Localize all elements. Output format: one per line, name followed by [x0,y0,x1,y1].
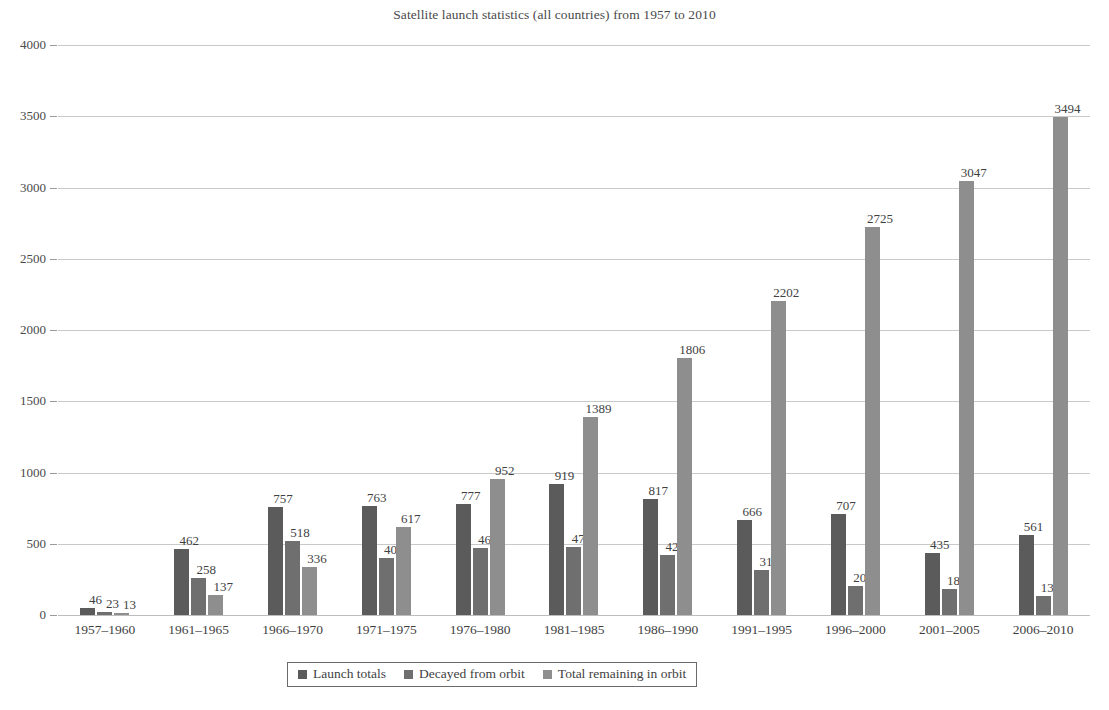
y-axis-tick-label: 4000 [0,37,46,53]
legend-item[interactable]: Decayed from orbit [404,666,525,682]
bar-group: 6663132202 [715,45,809,615]
bar-value-label: 462 [166,533,212,548]
y-axis-tick-label: 2500 [0,251,46,267]
bar-group: 462258137 [152,45,246,615]
bar-value-label: 817 [635,483,681,498]
bar[interactable] [1036,596,1051,615]
bar[interactable] [865,227,880,615]
bar[interactable] [959,181,974,615]
bar[interactable] [114,613,129,615]
y-axis-tick-mark [50,116,57,117]
bar[interactable] [362,506,377,615]
bar-value-label: 435 [917,537,963,552]
bar-group: 7072022725 [809,45,903,615]
bar[interactable] [566,547,581,615]
bar[interactable] [97,612,112,615]
bar[interactable] [848,586,863,615]
bar-value-label: 777 [448,488,494,503]
bar-value-label: 3047 [951,165,997,180]
bar-value-label: 137 [200,579,246,594]
bar-group: 777468952 [433,45,527,615]
y-axis-tick-mark [50,615,57,616]
bar-value-label: 666 [729,504,775,519]
y-axis-tick-mark [50,45,57,46]
bar[interactable] [771,301,786,615]
bar-value-label: 952 [482,463,528,478]
bar[interactable] [583,417,598,615]
bar-value-label: 707 [823,498,869,513]
bar-group: 757518336 [246,45,340,615]
bar-value-label: 919 [541,468,587,483]
y-axis-tick-label: 0 [0,607,46,623]
bar[interactable] [677,358,692,615]
bar[interactable] [208,595,223,615]
y-axis-tick-label: 1000 [0,465,46,481]
bar-value-label: 2725 [857,211,903,226]
legend-item[interactable]: Launch totals [298,666,386,682]
x-axis-tick-label: 2006–2010 [983,622,1103,638]
bar[interactable] [1053,117,1068,615]
bar[interactable] [174,549,189,615]
bar-value-label: 1806 [669,342,715,357]
bar[interactable] [302,567,317,615]
bar-group: 462313 [58,45,152,615]
bar-value-label: 757 [260,491,306,506]
bar[interactable] [1019,535,1034,615]
y-axis-tick-label: 500 [0,536,46,552]
legend-item[interactable]: Total remaining in orbit [543,666,686,682]
y-axis-tick-mark [50,473,57,474]
bar-value-label: 2202 [763,285,809,300]
bar[interactable] [396,527,411,615]
y-axis-tick-label: 3500 [0,108,46,124]
bar-group: 5611363494 [996,45,1090,615]
bar[interactable] [379,558,394,615]
y-axis-tick-label: 1500 [0,393,46,409]
bar-value-label: 561 [1011,519,1057,534]
y-axis-tick-mark [50,330,57,331]
bar[interactable] [660,555,675,615]
bar-value-label: 617 [388,511,434,526]
bar-group: 8174231806 [621,45,715,615]
legend-label: Decayed from orbit [419,666,525,682]
y-axis-tick-label: 3000 [0,180,46,196]
bar[interactable] [549,484,564,615]
bar-chart: Satellite launch statistics (all countri… [0,0,1109,710]
y-axis-tick-mark [50,544,57,545]
bar-value-label: 258 [183,562,229,577]
legend-swatch-icon [298,670,307,679]
gridline [58,615,1090,616]
bar-group: 9194741389 [527,45,621,615]
y-axis-tick-label: 2000 [0,322,46,338]
chart-title: Satellite launch statistics (all countri… [0,7,1109,23]
bar-group: 763400617 [339,45,433,615]
bar-value-label: 13 [106,597,152,612]
bar[interactable] [942,589,957,615]
y-axis-tick-mark [50,259,57,260]
y-axis-tick-mark [50,401,57,402]
legend-swatch-icon [404,670,413,679]
bar-value-label: 3494 [1045,101,1091,116]
chart-legend: Launch totalsDecayed from orbitTotal rem… [287,662,697,687]
bar-value-label: 518 [277,525,323,540]
y-axis-tick-mark [50,188,57,189]
bar[interactable] [754,570,769,615]
bar[interactable] [643,499,658,615]
bar[interactable] [268,507,283,615]
plot-area: 4623134622581377575183367634006177774689… [58,45,1090,615]
legend-label: Launch totals [313,666,386,682]
legend-swatch-icon [543,670,552,679]
bar-group: 4351803047 [902,45,996,615]
legend-label: Total remaining in orbit [558,666,686,682]
bar[interactable] [473,548,488,615]
bar[interactable] [490,479,505,615]
bar-value-label: 763 [354,490,400,505]
bar[interactable] [831,514,846,615]
bar-value-label: 1389 [575,401,621,416]
bar-value-label: 336 [294,551,340,566]
bar[interactable] [456,504,471,615]
